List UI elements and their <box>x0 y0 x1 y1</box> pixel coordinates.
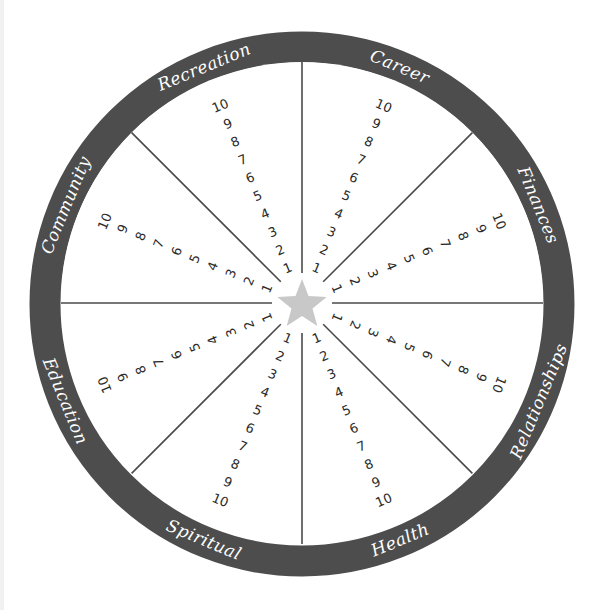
wheel-of-life: 1234567891012345678910123456789101234567… <box>0 0 589 610</box>
